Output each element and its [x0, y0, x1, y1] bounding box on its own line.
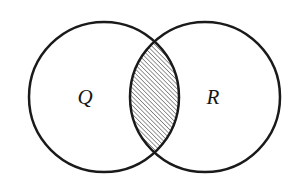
venn-diagram-figure: Q R: [0, 0, 299, 194]
venn-diagram-canvas: Q R: [0, 0, 299, 194]
set-label-r: R: [206, 85, 220, 109]
set-label-q: Q: [77, 85, 92, 109]
